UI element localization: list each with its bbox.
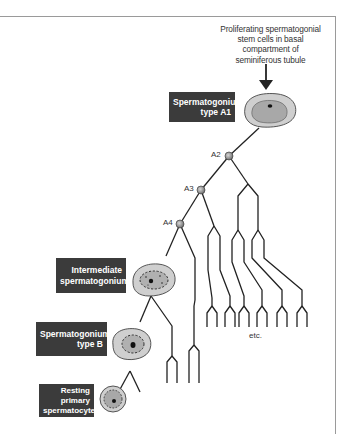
node-a3-icon bbox=[197, 186, 205, 194]
label-line: Intermediate bbox=[60, 265, 122, 276]
node-a2-label: A2 bbox=[211, 150, 221, 159]
terminal-forks bbox=[167, 306, 307, 383]
down-arrow-icon bbox=[259, 64, 273, 90]
etc-label: etc. bbox=[249, 331, 262, 340]
node-a3-label: A3 bbox=[184, 184, 194, 193]
label-line: primary bbox=[43, 396, 90, 406]
node-a4-icon bbox=[176, 220, 184, 228]
label-line: spermatogonium bbox=[60, 276, 122, 287]
node-a2-icon bbox=[225, 152, 233, 160]
cell-resting-spermatocyte-icon bbox=[100, 386, 126, 412]
label-resting-primary-spermatocyte: Resting primary spermatocyte bbox=[39, 384, 94, 417]
cell-type-b-icon bbox=[113, 329, 151, 360]
label-spermatogonium-a1: Spermatogonium type A1 bbox=[169, 92, 235, 122]
label-line: Spermatogonium bbox=[40, 329, 103, 340]
label-intermediate-spermatogonium: Intermediate spermatogonium bbox=[56, 258, 126, 293]
label-line: type B bbox=[40, 339, 103, 350]
lineage-tree bbox=[0, 0, 345, 434]
node-a4-label: A4 bbox=[163, 218, 173, 227]
label-line: Resting bbox=[43, 386, 90, 396]
cell-a1-icon bbox=[245, 94, 296, 128]
label-line: spermatocyte bbox=[43, 406, 90, 416]
cell-intermediate-icon bbox=[133, 264, 175, 296]
label-line: Spermatogonium bbox=[173, 97, 231, 108]
label-line: type A1 bbox=[173, 107, 231, 118]
label-spermatogonium-type-b: Spermatogonium type B bbox=[36, 322, 107, 356]
